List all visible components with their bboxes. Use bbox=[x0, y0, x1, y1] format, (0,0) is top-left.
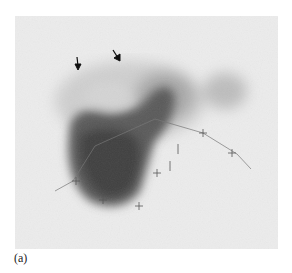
scan-image-panel bbox=[15, 16, 278, 249]
panel-label: (a) bbox=[14, 251, 27, 266]
scan-image bbox=[15, 16, 278, 249]
